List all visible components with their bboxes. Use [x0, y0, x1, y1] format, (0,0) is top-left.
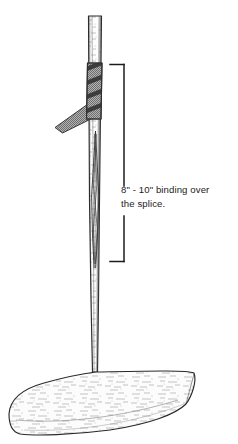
diagram-canvas	[0, 0, 238, 444]
binding-annotation-label: 8" - 10" binding over the splice.	[121, 183, 233, 210]
dimension-bracket	[110, 65, 124, 262]
paddle-splice-diagram: 8" - 10" binding over the splice.	[0, 0, 238, 444]
paddle-blade	[9, 371, 195, 435]
